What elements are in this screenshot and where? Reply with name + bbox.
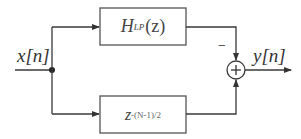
lowpass-block-arg: (z) (145, 16, 165, 37)
minus-sign: − (218, 38, 226, 53)
lowpass-block-name: H (121, 16, 134, 37)
delay-block-exponent: -(N-1)/2 (131, 110, 161, 120)
delay-block-label: z-(N-1)/2 (100, 96, 186, 133)
input-signal-label: x[n] (17, 45, 50, 67)
output-signal-label: y[n] (253, 45, 286, 67)
delay-to-summer-line (186, 80, 236, 114)
lowpass-block-subscript: LP (134, 22, 145, 32)
lowpass-to-summer-line (186, 27, 236, 60)
lowpass-block-label: HLP(z) (100, 8, 186, 45)
